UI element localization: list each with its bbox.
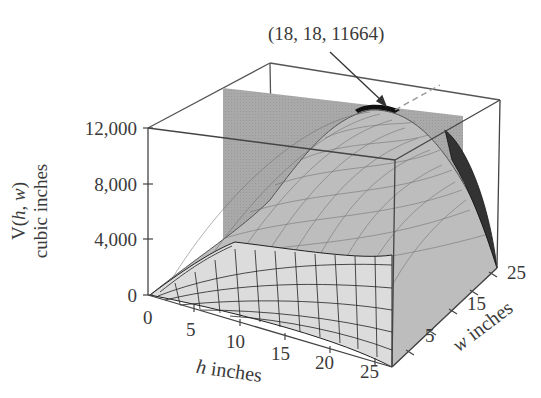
y-tick-label: 5 [425, 326, 435, 345]
z-tick-label: 0 [47, 286, 137, 305]
z-axis-label-line1: V(h, w) [8, 164, 30, 258]
x-tick-label: 15 [271, 344, 290, 363]
x-tick-label: 5 [186, 320, 196, 339]
max-point-annotation: (18, 18, 11664) [268, 24, 384, 43]
z-axis-label-line2: cubic inches [30, 164, 52, 258]
z-tick-label: 4,000 [47, 230, 137, 249]
x-tick-label: 25 [360, 362, 379, 381]
surface-chart: (18, 18, 11664) 12,000 8,000 4,000 0 V(h… [0, 0, 541, 398]
peak-dashed-line [395, 85, 440, 110]
z-tick-label: 12,000 [47, 119, 137, 138]
z-tick-label: 8,000 [47, 175, 137, 194]
x-tick-label: 0 [143, 308, 153, 327]
y-tick-label: 25 [507, 263, 526, 282]
x-tick-label: 20 [315, 353, 334, 372]
z-axis-label: V(h, w) cubic inches [8, 164, 52, 258]
annotation-arrow [330, 52, 386, 106]
x-tick-label: 10 [226, 332, 245, 351]
